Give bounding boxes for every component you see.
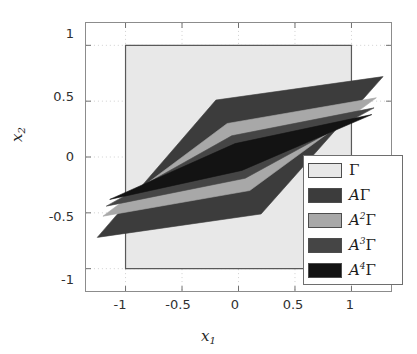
y-tick-label-neg-1: -1 — [30, 272, 74, 287]
legend-item-a-gamma[interactable]: AΓ — [308, 184, 398, 206]
legend-swatch-a4-gamma — [308, 263, 342, 278]
legend-label-a2-gamma: A2Γ — [349, 213, 376, 228]
x-axis-label: x1 — [0, 327, 417, 345]
legend-item-gamma[interactable]: Γ — [308, 159, 398, 181]
legend-item-a2-gamma[interactable]: A2Γ — [308, 209, 398, 231]
x-tick-label-neg-1: -1 — [98, 297, 142, 312]
y-axis-label: x2 — [8, 127, 26, 142]
y-tick-label-0: 0 — [30, 149, 74, 164]
y-tick-label-1: 1 — [30, 26, 74, 41]
legend-label-a4-gamma: A4Γ — [349, 263, 376, 278]
x-tick-label-1: 1 — [328, 297, 372, 312]
figure-canvas: x2 x1 1 0.5 0 -0.5 -1 -1 -0.5 0 0.5 1 Γ … — [0, 0, 417, 354]
legend-item-a4-gamma[interactable]: A4Γ — [308, 259, 398, 281]
x-axis-label-subscript: 1 — [210, 335, 216, 346]
legend-item-a3-gamma[interactable]: A3Γ — [308, 234, 398, 256]
legend-label-gamma: Γ — [349, 163, 359, 178]
x-tick-label-neg-0-5: -0.5 — [156, 297, 200, 312]
x-tick-label-0: 0 — [213, 297, 257, 312]
legend-label-a3-gamma: A3Γ — [349, 238, 376, 253]
y-axis-label-base: x — [8, 134, 26, 142]
legend: Γ AΓ A2Γ A3Γ A4Γ — [303, 155, 403, 285]
legend-swatch-a2-gamma — [308, 213, 342, 228]
y-axis-label-subscript: 2 — [16, 127, 27, 133]
legend-swatch-gamma — [308, 163, 342, 178]
legend-swatch-a-gamma — [308, 188, 342, 203]
legend-swatch-a3-gamma — [308, 238, 342, 253]
x-axis-label-base: x — [201, 327, 209, 345]
legend-label-a-gamma: AΓ — [349, 188, 370, 203]
y-tick-label-0-5: 0.5 — [30, 89, 74, 104]
y-tick-label-neg-0-5: -0.5 — [30, 209, 74, 224]
x-tick-label-0-5: 0.5 — [271, 297, 315, 312]
